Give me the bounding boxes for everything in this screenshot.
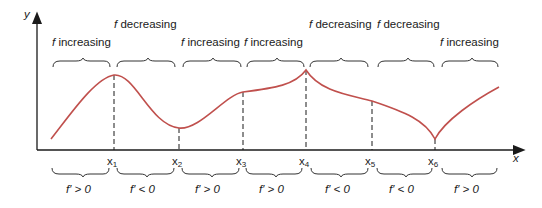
y-axis-label: y — [23, 8, 31, 20]
label-fprime-7: f′ > 0 — [454, 183, 479, 195]
top-braces — [53, 58, 498, 67]
label-fprime-4: f′ > 0 — [259, 183, 284, 195]
svg-text:x1: x1 — [107, 155, 118, 169]
label-fprime-6: f′ < 0 — [389, 183, 414, 195]
bottom-braces — [52, 168, 497, 177]
label-f-increasing-4: f increasing — [440, 36, 499, 48]
label-f-decreasing-3: f decreasing — [377, 18, 440, 30]
svg-text:x4: x4 — [299, 155, 310, 169]
svg-text:x6: x6 — [428, 155, 439, 169]
x-tick-labels: x1 x2 x3 x4 x5 x6 — [107, 155, 439, 169]
derivative-sign-labels: f′ > 0 f′ < 0 f′ > 0 f′ > 0 f′ < 0 f′ < … — [66, 183, 479, 195]
label-fprime-3: f′ > 0 — [195, 183, 220, 195]
label-fprime-2: f′ < 0 — [130, 183, 155, 195]
increasing-decreasing-diagram: y x x1 x2 x3 x4 x5 x6 f increasing f dec… — [0, 0, 542, 208]
svg-text:x2: x2 — [172, 155, 183, 169]
function-curve — [51, 70, 499, 139]
label-f-increasing-2: f increasing — [181, 36, 240, 48]
svg-text:x5: x5 — [365, 155, 376, 169]
label-fprime-1: f′ > 0 — [66, 183, 91, 195]
x-axis-label: x — [512, 152, 520, 164]
label-f-decreasing-1: f decreasing — [114, 18, 177, 30]
label-f-increasing-3: f increasing — [244, 36, 303, 48]
label-fprime-5: f′ < 0 — [325, 183, 350, 195]
label-f-increasing-1: f increasing — [52, 36, 111, 48]
label-f-decreasing-2: f decreasing — [309, 18, 372, 30]
svg-text:x3: x3 — [236, 155, 247, 169]
